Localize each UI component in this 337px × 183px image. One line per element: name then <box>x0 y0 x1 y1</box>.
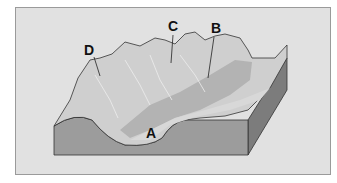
label-c: C <box>168 19 178 33</box>
label-d: D <box>84 43 94 57</box>
label-b: B <box>211 21 221 35</box>
label-a: A <box>146 126 156 140</box>
